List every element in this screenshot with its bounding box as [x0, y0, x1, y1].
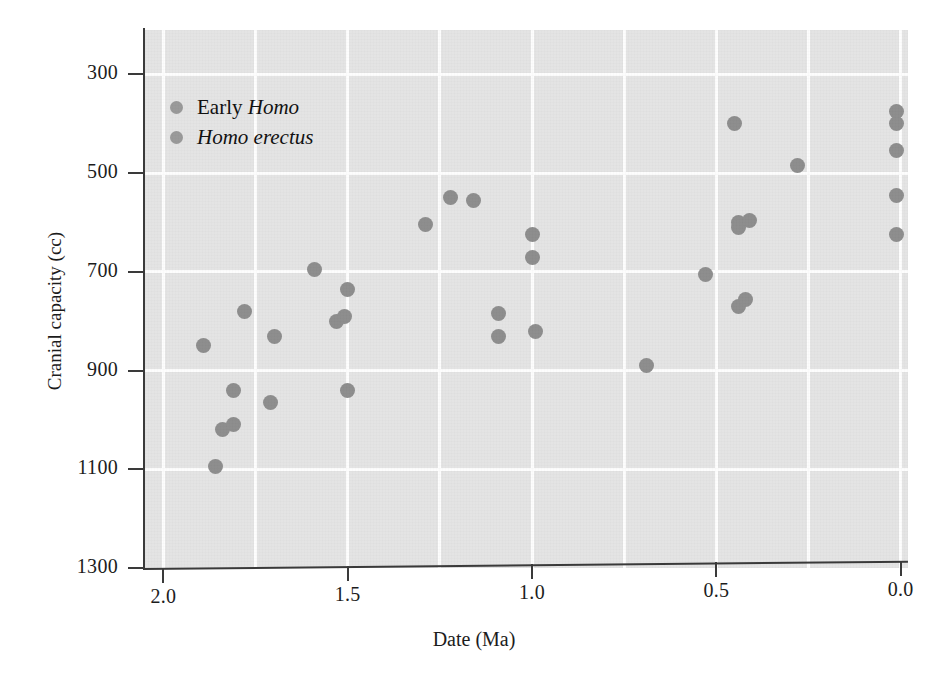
x-tick-label: 1.0 [492, 581, 572, 604]
data-point [742, 213, 757, 228]
data-point [889, 227, 904, 242]
y-tick-label: 300 [18, 61, 118, 84]
gridline-vertical [346, 30, 349, 568]
data-point [889, 188, 904, 203]
legend-marker-icon [170, 101, 183, 114]
y-tick-mark [128, 73, 144, 75]
data-point [639, 358, 654, 373]
x-tick-label: 0.5 [676, 579, 756, 602]
y-axis-title: Cranial capacity (cc) [44, 101, 66, 521]
data-point [525, 250, 540, 265]
data-point [727, 116, 742, 131]
x-tick-label: 1.5 [308, 583, 388, 606]
data-point [237, 304, 252, 319]
gridline-vertical [623, 30, 626, 568]
y-axis-line [143, 28, 145, 570]
data-point [491, 306, 506, 321]
gridline-horizontal [145, 73, 908, 76]
y-tick-label: 900 [18, 358, 118, 381]
y-tick-label: 500 [18, 160, 118, 183]
y-tick-mark [128, 468, 144, 470]
gridline-vertical [531, 30, 534, 568]
gridline-vertical [438, 30, 441, 568]
data-point [337, 309, 352, 324]
x-tick-mark [900, 561, 902, 576]
data-point [263, 395, 278, 410]
data-point [226, 383, 241, 398]
data-point [208, 459, 223, 474]
data-point [226, 417, 241, 432]
data-point [307, 262, 322, 277]
y-tick-mark [128, 172, 144, 174]
scatter-plot-figure: Early Homo Homo erectus 1300110090070050… [0, 0, 948, 692]
x-tick-mark [162, 568, 164, 583]
data-point [196, 338, 211, 353]
data-point [267, 329, 282, 344]
gridline-vertical [162, 30, 165, 568]
data-point [738, 292, 753, 307]
legend-item-homo-erectus: Homo erectus [170, 122, 313, 152]
data-point [418, 217, 433, 232]
gridline-horizontal [145, 270, 908, 273]
data-point [443, 190, 458, 205]
y-tick-label: 1100 [18, 456, 118, 479]
data-point [889, 143, 904, 158]
y-tick-mark [128, 271, 144, 273]
legend-item-early-homo: Early Homo [170, 92, 313, 122]
x-tick-mark [347, 566, 349, 581]
x-tick-label: 0.0 [861, 578, 941, 601]
y-tick-label: 1300 [18, 555, 118, 578]
data-point [528, 324, 543, 339]
y-tick-label: 700 [18, 259, 118, 282]
legend-label-homo-erectus: Homo erectus [197, 125, 313, 150]
gridline-horizontal [145, 468, 908, 471]
data-point [340, 282, 355, 297]
x-tick-mark [715, 562, 717, 577]
data-point [889, 116, 904, 131]
x-axis-title: Date (Ma) [0, 628, 948, 651]
data-point [698, 267, 713, 282]
data-point [466, 193, 481, 208]
gridline-vertical [715, 30, 718, 568]
y-tick-mark [128, 370, 144, 372]
plot-area: Early Homo Homo erectus [145, 30, 908, 568]
gridline-horizontal [145, 369, 908, 372]
x-tick-label: 2.0 [123, 585, 203, 608]
legend-label-early-homo: Early Homo [197, 95, 299, 120]
gridline-vertical [807, 30, 810, 568]
data-point [340, 383, 355, 398]
legend: Early Homo Homo erectus [170, 92, 313, 152]
data-point [491, 329, 506, 344]
y-tick-mark [128, 567, 144, 569]
legend-marker-icon [170, 131, 183, 144]
x-tick-mark [531, 564, 533, 579]
data-point [525, 227, 540, 242]
